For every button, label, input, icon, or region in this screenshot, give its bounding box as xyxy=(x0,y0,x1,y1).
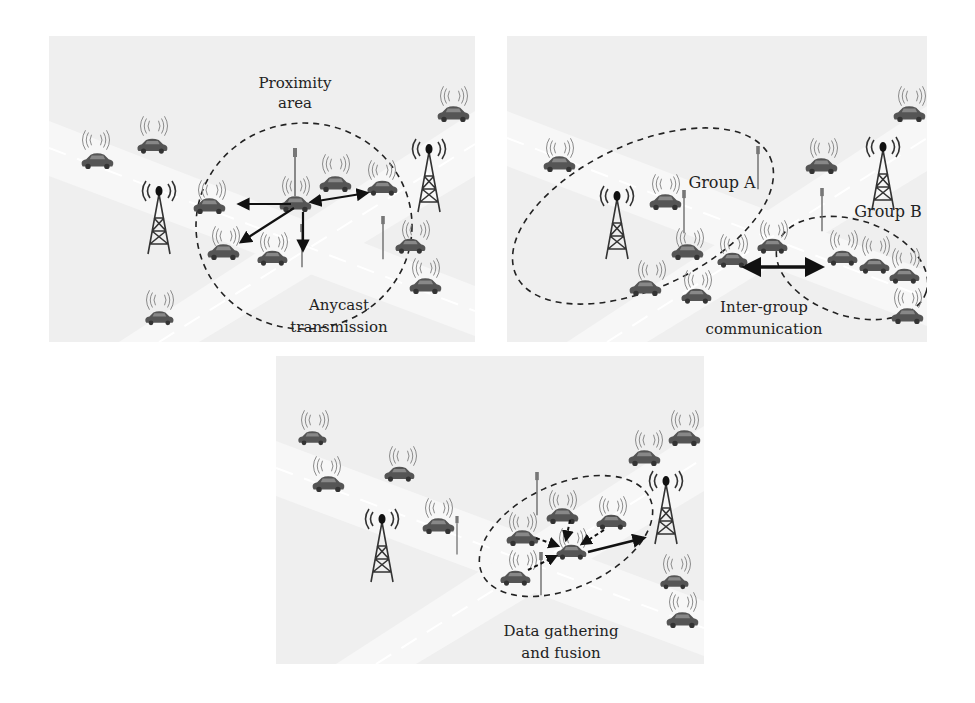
proximity-area-label-line2: area xyxy=(245,94,345,112)
signal-waves-icon xyxy=(899,86,926,106)
car-icon xyxy=(672,244,704,260)
car-icon xyxy=(384,467,414,482)
signal-waves-icon xyxy=(147,290,174,310)
cell-tower-icon xyxy=(366,509,399,582)
signal-waves-icon xyxy=(636,430,663,450)
signal-waves-icon xyxy=(550,490,577,510)
panel-anycast-transmission: Proximity area Anycast transmission xyxy=(49,36,475,342)
group-a-label: Group A xyxy=(677,174,767,192)
proximity-area-label-line1: Proximity xyxy=(245,74,345,92)
car-icon xyxy=(298,431,326,445)
car-icon xyxy=(208,244,240,260)
signal-waves-icon xyxy=(403,220,430,240)
signal-waves-icon xyxy=(302,410,329,430)
signal-waves-icon xyxy=(639,260,666,280)
group-b-label: Group B xyxy=(843,203,927,221)
cell-tower-icon xyxy=(601,186,634,259)
signal-waves-icon xyxy=(510,512,537,532)
signal-waves-icon xyxy=(323,154,350,174)
car-icon xyxy=(137,139,167,154)
signal-waves-icon xyxy=(390,446,417,466)
signal-waves-icon xyxy=(283,176,310,196)
panel-inter-group-communication: Group A Group B Inter-group communicatio… xyxy=(507,36,927,342)
data-gathering-caption-line2: and fusion xyxy=(476,644,646,662)
roadside-unit-icon xyxy=(293,148,297,196)
inter-group-caption-line1: Inter-group xyxy=(699,298,829,316)
inter-group-caption-line2: communication xyxy=(699,320,829,338)
data-gathering-caption-line1: Data gathering xyxy=(476,622,646,640)
car-icon xyxy=(395,239,425,254)
signal-waves-icon xyxy=(441,86,468,106)
panel-data-gathering-and-fusion: Data gathering and fusion xyxy=(276,356,704,664)
car-icon xyxy=(806,158,838,174)
car-icon xyxy=(660,575,688,589)
car-icon xyxy=(438,106,470,122)
anycast-caption-line1: Anycast xyxy=(279,296,399,314)
anycast-caption-line2: transmission xyxy=(279,318,399,336)
car-icon xyxy=(320,176,352,192)
signal-waves-icon xyxy=(811,138,838,158)
signal-waves-icon xyxy=(141,116,168,136)
road-scene xyxy=(276,356,704,664)
signal-waves-icon xyxy=(672,410,699,430)
car-icon xyxy=(629,450,661,466)
signal-waves-icon xyxy=(664,554,691,574)
